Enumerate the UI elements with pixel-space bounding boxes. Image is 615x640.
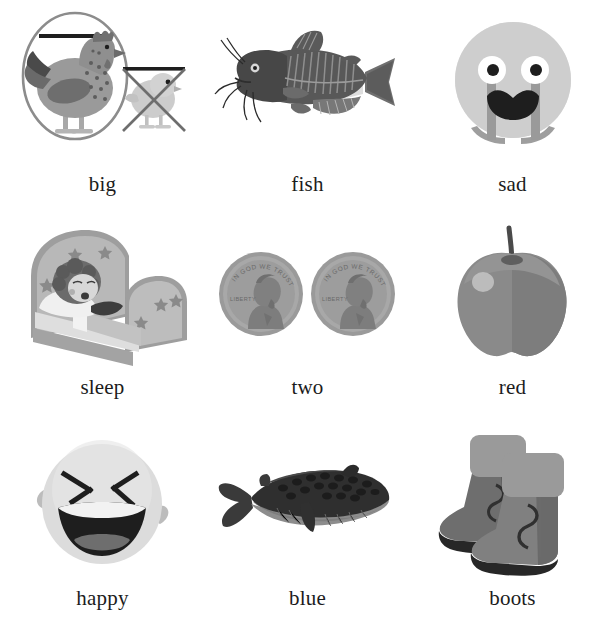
apple-icon: [410, 215, 615, 375]
flashcard-label: two: [205, 377, 410, 398]
pair-of-boots-icon: [410, 420, 615, 585]
flashcard-sad[interactable]: sad: [410, 0, 615, 215]
two-pennies-icon: IN GOD WE TRUST LIBERTY IN GOD WE TRUST …: [205, 215, 410, 375]
flashcard-label: sad: [410, 174, 615, 195]
svg-text:LIBERTY: LIBERTY: [230, 296, 256, 302]
laughing-face-icon: [0, 420, 205, 585]
flashcard-grid: big: [0, 0, 615, 640]
child-sleeping-in-bed-icon: [0, 215, 205, 375]
flashcard-label: sleep: [0, 377, 205, 398]
flashcard-big[interactable]: big: [0, 0, 205, 215]
flashcard-label: fish: [205, 174, 410, 195]
flashcard-fish[interactable]: fish: [205, 0, 410, 215]
flashcard-sleep[interactable]: sleep: [0, 215, 205, 420]
svg-text:LIBERTY: LIBERTY: [322, 296, 348, 302]
flashcard-label: big: [0, 174, 205, 195]
flashcard-label: red: [410, 377, 615, 398]
flashcard-two[interactable]: IN GOD WE TRUST LIBERTY IN GOD WE TRUST …: [205, 215, 410, 420]
whale-icon: [205, 420, 410, 585]
flashcard-red[interactable]: red: [410, 215, 615, 420]
flashcard-label: blue: [205, 588, 410, 609]
flashcard-blue[interactable]: blue: [205, 420, 410, 640]
catfish-icon: [205, 0, 410, 170]
chicken-and-chick-comparison-icon: [0, 0, 205, 170]
flashcard-label: boots: [410, 588, 615, 609]
flashcard-boots[interactable]: boots: [410, 420, 615, 640]
flashcard-label: happy: [0, 588, 205, 609]
crying-face-icon: [410, 0, 615, 170]
flashcard-happy[interactable]: happy: [0, 420, 205, 640]
flashcard-sheet: big: [0, 0, 615, 640]
